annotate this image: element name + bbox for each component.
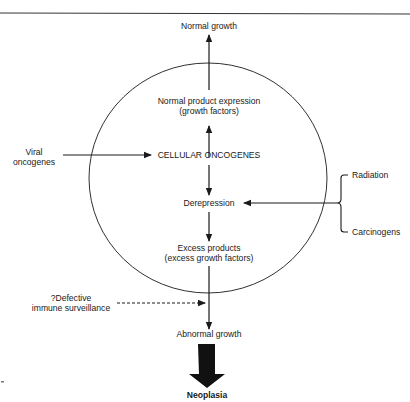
label-carcinogens: Carcinogens: [352, 227, 400, 237]
label-radiation: Radiation: [352, 170, 388, 180]
label-abnormal-growth: Abnormal growth: [159, 329, 259, 339]
label-defective-immune-surveillance: ?Defective immune surveillance: [26, 293, 116, 313]
top-rule: [0, 13, 410, 14]
label-viral-oncogenes: Viral oncogenes: [8, 147, 60, 167]
label-normal-product-expression: Normal product expression (growth factor…: [139, 96, 279, 116]
label-neoplasia: Neoplasia: [169, 390, 245, 400]
label-viral-line1: Viral: [8, 147, 60, 157]
label-normal-product-line2: (growth factors): [139, 106, 279, 116]
label-immune-line2: immune surveillance: [26, 303, 116, 313]
label-excess-products: Excess products (excess growth factors): [149, 243, 269, 263]
bracket-radiation-carcinogens: [337, 175, 348, 232]
label-normal-growth: Normal growth: [159, 21, 259, 31]
bold-arrow-to-neoplasia: [189, 344, 225, 388]
label-excess-line1: Excess products: [149, 243, 269, 253]
label-cellular-oncogenes: CELLULAR ONCOGENES: [152, 150, 266, 160]
label-derepression: Derepression: [169, 198, 249, 208]
label-immune-line1: ?Defective: [26, 293, 116, 303]
label-normal-product-line1: Normal product expression: [139, 96, 279, 106]
stray-mark: [1, 381, 4, 383]
label-viral-line2: oncogenes: [8, 157, 60, 167]
label-excess-line2: (excess growth factors): [149, 253, 269, 263]
oncogene-diagram: Normal growth Normal product expression …: [0, 0, 410, 402]
